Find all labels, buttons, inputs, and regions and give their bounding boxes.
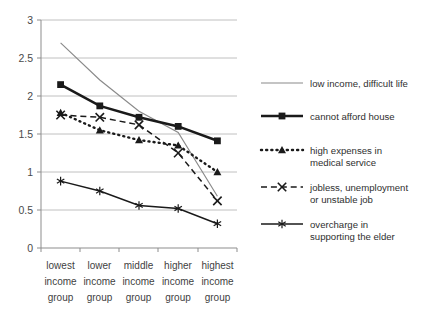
data-point bbox=[135, 136, 143, 143]
legend-marker-3 bbox=[261, 183, 303, 191]
legend-label: low income, difficult life bbox=[310, 78, 408, 89]
legend-label: medical service bbox=[310, 157, 376, 168]
data-point bbox=[135, 121, 143, 129]
data-point bbox=[214, 219, 221, 228]
line-chart: 3 2.5 2 1.5 1 0.5 0 lowest income group … bbox=[0, 0, 446, 313]
svg-text:lower: lower bbox=[88, 260, 113, 271]
series-4 bbox=[57, 177, 221, 228]
legend-entry-4: overcharge in supporting the elder bbox=[310, 219, 396, 242]
data-series-layer bbox=[56, 43, 221, 228]
x-axis-labels: lowest income group lower income group m… bbox=[44, 260, 234, 303]
legend-label: or unstable job bbox=[310, 194, 373, 205]
legend-label: jobless, unemployment bbox=[309, 182, 408, 193]
legend-label: cannot afford house bbox=[310, 111, 395, 122]
svg-text:income: income bbox=[83, 276, 116, 287]
svg-text:group: group bbox=[87, 292, 113, 303]
x-category-label-3: higher income group bbox=[162, 260, 195, 303]
y-tick-label: 2.5 bbox=[18, 52, 33, 64]
legend-label: supporting the elder bbox=[310, 231, 396, 242]
data-point bbox=[96, 102, 103, 109]
svg-text:income: income bbox=[201, 276, 234, 287]
chart-figure: 3 2.5 2 1.5 1 0.5 0 lowest income group … bbox=[0, 0, 446, 313]
data-point bbox=[175, 123, 182, 130]
chart-legend: low income, difficult life cannot afford… bbox=[261, 78, 408, 242]
data-point bbox=[57, 81, 64, 88]
x-category-label-4: highest income group bbox=[201, 260, 234, 303]
svg-text:group: group bbox=[205, 292, 231, 303]
series-line bbox=[61, 85, 218, 141]
legend-entry-3: jobless, unemployment or unstable job bbox=[309, 182, 408, 205]
y-tick-label: 1.5 bbox=[18, 128, 33, 140]
y-tick-label: 3 bbox=[27, 14, 33, 26]
x-category-label-1: lower income group bbox=[83, 260, 116, 303]
data-point bbox=[213, 197, 221, 205]
legend-entry-1: cannot afford house bbox=[310, 111, 395, 122]
legend-marker-1 bbox=[261, 113, 303, 120]
svg-text:group: group bbox=[165, 292, 191, 303]
svg-text:income: income bbox=[162, 276, 195, 287]
x-tickmarks bbox=[41, 248, 237, 252]
y-tickmarks bbox=[37, 20, 41, 248]
data-point bbox=[136, 114, 143, 121]
svg-text:income: income bbox=[44, 276, 77, 287]
svg-text:income: income bbox=[122, 276, 155, 287]
data-point bbox=[174, 149, 182, 157]
data-point bbox=[96, 126, 104, 133]
svg-text:group: group bbox=[48, 292, 74, 303]
legend-marker-2 bbox=[261, 146, 303, 153]
legend-point bbox=[279, 113, 286, 120]
svg-text:higher: higher bbox=[164, 260, 192, 271]
svg-text:group: group bbox=[126, 292, 152, 303]
y-axis-labels: 3 2.5 2 1.5 1 0.5 0 bbox=[18, 14, 33, 254]
legend-entry-0: low income, difficult life bbox=[310, 78, 408, 89]
legend-marker-4 bbox=[261, 220, 303, 229]
legend-label: overcharge in bbox=[310, 219, 368, 230]
legend-entry-2: high expenses in medical service bbox=[310, 145, 382, 168]
svg-text:middle: middle bbox=[124, 260, 154, 271]
y-tick-label: 1 bbox=[27, 166, 33, 178]
y-tick-label: 0.5 bbox=[18, 204, 33, 216]
y-tick-label: 2 bbox=[27, 90, 33, 102]
x-category-label-2: middle income group bbox=[122, 260, 155, 303]
svg-text:highest: highest bbox=[201, 260, 233, 271]
data-point bbox=[214, 137, 221, 144]
series-1 bbox=[57, 81, 221, 144]
legend-point bbox=[278, 146, 286, 153]
legend-markers bbox=[261, 83, 303, 228]
legend-label: high expenses in bbox=[310, 145, 382, 156]
svg-text:lowest: lowest bbox=[46, 260, 75, 271]
x-category-label-0: lowest income group bbox=[44, 260, 77, 303]
y-tick-label: 0 bbox=[27, 242, 33, 254]
